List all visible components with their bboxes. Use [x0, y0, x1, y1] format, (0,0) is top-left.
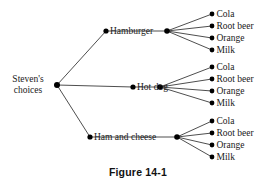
root-node-label: Steven's choices [5, 74, 51, 96]
leaf-node-label-hot-dog-orange: Orange [217, 86, 245, 97]
leaf-node-dot-ham-and-cheese-cola [210, 119, 215, 124]
edge-root-to-hot-dog [57, 85, 133, 87]
leaf-node-label-hamburger-orange: Orange [217, 33, 245, 44]
branch-node-dot-ham-and-cheese-hub [174, 134, 180, 140]
tree-diagram-figure: Steven's choices Hamburger Hot dog Ham a… [0, 0, 276, 186]
leaf-node-dot-hot-dog-orange [210, 89, 215, 94]
edge-hamburger-to-milk [167, 31, 212, 50]
leaf-node-label-ham-and-cheese-cola: Cola [217, 116, 235, 127]
leaf-node-label-hot-dog-cola: Cola [217, 62, 235, 73]
branch-node-dot-hamburger-hub [164, 28, 170, 34]
leaf-node-dot-ham-and-cheese-root-beer [210, 131, 215, 136]
leaf-node-label-hot-dog-root-beer: Root beer [217, 74, 254, 85]
leaf-node-dot-hot-dog-root-beer [210, 77, 215, 82]
edge-ham-and-cheese-to-orange [177, 137, 212, 145]
leaf-node-dot-ham-and-cheese-milk [210, 155, 215, 160]
branch-node-label-ham-and-cheese: Ham and cheese [94, 132, 156, 143]
root-node-label-line1: Steven's [5, 74, 51, 85]
edge-root-to-ham-and-cheese [57, 85, 90, 137]
leaf-node-dot-hamburger-orange [210, 36, 215, 41]
branch-node-label-hot-dog: Hot dog [137, 82, 168, 93]
branch-node-dot-hamburger-left [103, 28, 108, 33]
leaf-node-label-ham-and-cheese-orange: Orange [217, 140, 245, 151]
leaf-node-label-hot-dog-milk: Milk [217, 98, 235, 109]
leaf-node-dot-hamburger-milk [210, 48, 215, 53]
edge-root-to-hamburger [57, 31, 106, 85]
leaf-node-label-hamburger-milk: Milk [217, 45, 235, 56]
leaf-node-label-ham-and-cheese-milk: Milk [217, 152, 235, 163]
leaf-node-dot-hot-dog-milk [210, 101, 215, 106]
leaf-node-label-ham-and-cheese-root-beer: Root beer [217, 128, 254, 139]
leaf-node-dot-hamburger-root-beer [210, 24, 215, 29]
leaf-node-dot-hamburger-cola [210, 12, 215, 17]
edge-hamburger-to-orange [167, 31, 212, 38]
root-node-label-line2: choices [5, 85, 51, 96]
branch-node-dot-hot-dog-left [130, 84, 135, 89]
leaf-node-dot-hot-dog-cola [210, 65, 215, 70]
branch-node-label-hamburger: Hamburger [110, 26, 153, 37]
root-node-dot [54, 82, 60, 88]
branch-node-dot-ham-and-cheese-left [87, 134, 92, 139]
leaf-node-label-hamburger-cola: Cola [217, 9, 235, 20]
figure-caption: Figure 14-1 [0, 166, 276, 178]
edge-ham-and-cheese-to-milk [177, 137, 212, 157]
leaf-node-dot-ham-and-cheese-orange [210, 143, 215, 148]
leaf-node-label-hamburger-root-beer: Root beer [217, 21, 254, 32]
